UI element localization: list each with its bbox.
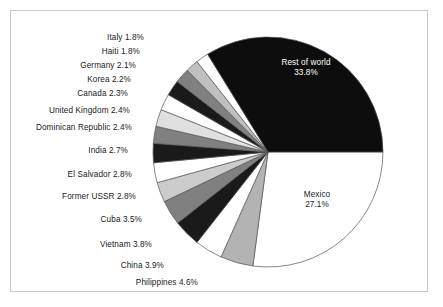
- pie-label-canada: Canada 2.3%: [18, 89, 128, 98]
- pie-chart-figure: Italy 1.8% Haiti 1.8% Germany 2.1% Korea…: [0, 0, 443, 307]
- pie-label-former-ussr: Former USSR 2.8%: [14, 192, 136, 201]
- pie-label-united-kingdom: United Kingdom 2.4%: [6, 106, 130, 115]
- pie-label-rest-of-world: Rest of world 33.8%: [258, 58, 354, 79]
- pie-label-cuba: Cuba 3.5%: [36, 215, 142, 224]
- pie-label-rest-of-world-name: Rest of world: [258, 58, 354, 68]
- pie-label-philippines: Philippines 4.6%: [86, 278, 198, 287]
- pie-label-italy: Italy 1.8%: [40, 33, 144, 42]
- pie-label-mexico-name: Mexico: [282, 190, 352, 200]
- pie-label-mexico-value: 27.1%: [282, 200, 352, 210]
- pie-label-india: India 2.7%: [28, 146, 128, 155]
- pie-label-rest-of-world-value: 33.8%: [258, 68, 354, 78]
- pie-label-korea: Korea 2.2%: [24, 75, 131, 84]
- pie-label-china: China 3.9%: [60, 261, 164, 270]
- pie-label-dominican-republic: Dominican Republic 2.4%: [2, 123, 132, 132]
- pie-label-mexico: Mexico 27.1%: [282, 190, 352, 211]
- pie-label-vietnam: Vietnam 3.8%: [42, 240, 152, 249]
- pie-label-germany: Germany 2.1%: [26, 61, 136, 70]
- pie-label-haiti: Haiti 1.8%: [36, 47, 140, 56]
- pie-label-el-salvador: El Salvador 2.8%: [18, 170, 132, 179]
